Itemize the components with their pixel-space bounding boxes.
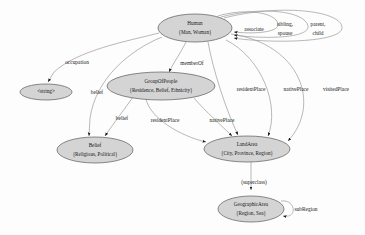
edge-label-belief-human: belief (91, 89, 103, 95)
edge-label-belief-group: belief (116, 115, 128, 121)
edge-label-subregion: subRegion (294, 206, 317, 212)
node-string[interactable]: <string> (20, 84, 72, 100)
edge-label-layer: occupation memberOf belief belief reside… (65, 21, 349, 212)
node-landarea-attributes: {City, Province, Region} (221, 150, 274, 157)
node-belief-name: Belief (89, 142, 102, 148)
node-belief-attributes: {Religious, Political} (73, 151, 118, 158)
edge-label-residentplace-group: residentPlace (151, 117, 180, 123)
node-landarea[interactable]: LandArea {City, Province, Region} (204, 136, 290, 162)
node-geographicarea-name: GeographicArea (234, 201, 269, 207)
diagram-canvas: Human {Man, Woman} <string> GroupOfPeopl… (0, 0, 365, 235)
node-human-name: Human (187, 20, 203, 26)
edge-label-spouse: spouse (278, 30, 293, 36)
node-belief[interactable]: Belief {Religious, Political} (57, 137, 133, 163)
edge-sibling-spouse (221, 11, 308, 37)
node-geographicarea-attributes: {Region, Sea} (236, 210, 267, 217)
edge-memberof (169, 42, 186, 72)
edge-label-visitedplace-human: visitedPlace (323, 86, 350, 92)
node-geographicarea-shape[interactable] (218, 196, 284, 222)
ontology-graph: Human {Man, Woman} <string> GroupOfPeopl… (0, 0, 365, 235)
node-groupofpeople-attributes: {Residence, Belief, Ethnicity} (129, 87, 193, 94)
edge-label-memberof: memberOf (180, 60, 204, 66)
node-groupofpeople[interactable]: GroupOfPeople {Residence, Belief, Ethnic… (107, 72, 215, 100)
edge-label-nativeplace-human: nativePlace (284, 86, 309, 92)
node-human-attributes: {Man, Woman} (179, 29, 213, 36)
node-landarea-name: LandArea (237, 141, 258, 147)
node-groupofpeople-name: GroupOfPeople (145, 78, 179, 84)
node-human-shape[interactable] (158, 14, 232, 42)
edge-label-superclass: (superclass) (241, 179, 267, 186)
edge-label-nativeplace-group: nativePlace (210, 117, 235, 123)
edge-label-parent: parent, (311, 21, 326, 27)
node-human[interactable]: Human {Man, Woman} (158, 14, 232, 42)
node-belief-shape[interactable] (57, 137, 133, 163)
edge-label-sibling: sibling, (277, 21, 294, 27)
node-groupofpeople-shape[interactable] (107, 72, 215, 100)
node-geographicarea[interactable]: GeographicArea {Region, Sea} (218, 196, 284, 222)
edge-label-occupation: occupation (65, 59, 89, 65)
edge-label-residentplace-human: residentPlace (237, 86, 266, 92)
node-landarea-shape[interactable] (204, 136, 290, 162)
edge-label-associate: associate (244, 26, 264, 32)
node-string-name: <string> (37, 88, 55, 94)
edge-label-child: child (313, 30, 324, 36)
